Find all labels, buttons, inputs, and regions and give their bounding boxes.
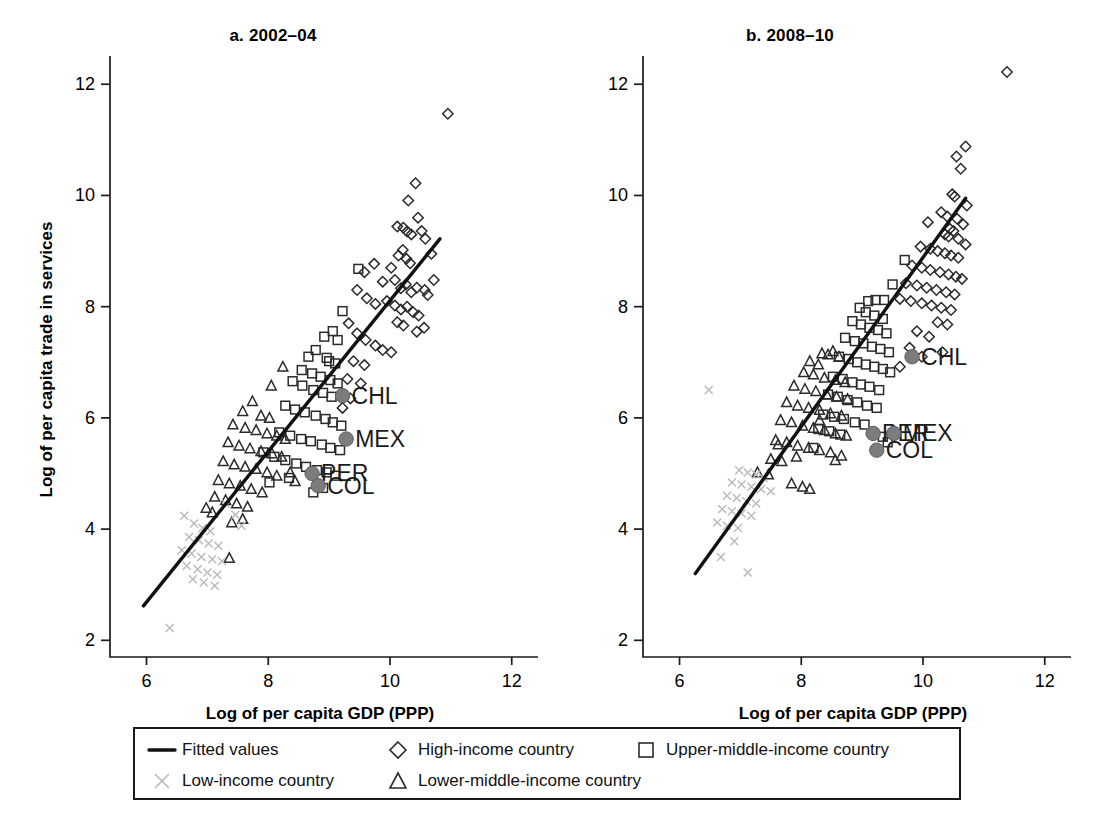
marker-triangle (240, 423, 250, 432)
marker-diamond (348, 356, 358, 366)
marker-square (333, 336, 342, 345)
marker-triangle (290, 476, 300, 485)
marker-square (880, 296, 889, 305)
marker-cross (203, 568, 211, 576)
marker-square (320, 332, 329, 341)
marker-square (336, 446, 345, 455)
figure-root: a. 2002–04 68101224681012Log of per capi… (0, 0, 1093, 829)
marker-diamond (386, 263, 396, 273)
highlight-marker-col (311, 479, 325, 493)
x-tick-label: 6 (142, 671, 152, 691)
marker-cross (747, 512, 755, 520)
marker-cross (767, 487, 775, 495)
y-tick-label: 8 (85, 297, 95, 317)
marker-cross (713, 518, 721, 526)
marker-triangle (800, 384, 810, 393)
marker-square (292, 459, 301, 468)
marker-diamond (1002, 67, 1012, 77)
marker-cross (189, 575, 197, 583)
legend-triangle-icon (383, 770, 413, 792)
marker-square (338, 307, 347, 316)
fitted-values-line (695, 198, 965, 573)
legend-item-low-income-country: Low-income country (147, 764, 334, 797)
marker-square (872, 403, 881, 412)
y-axis-title: Log of per capita trade in services (37, 222, 56, 498)
marker-triangle (257, 487, 267, 496)
marker-diamond (931, 285, 941, 295)
marker-cross (735, 466, 743, 474)
legend-label: Fitted values (182, 740, 278, 760)
marker-triangle (246, 484, 256, 493)
marker-triangle (262, 467, 272, 476)
country-label-col: COL (886, 437, 934, 463)
marker-triangle (811, 386, 821, 395)
legend-row-0: Fitted valuesHigh-income countryUpper-mi… (135, 733, 959, 766)
marker-triangle (782, 397, 792, 406)
marker-diamond (942, 319, 952, 329)
marker-triangle (793, 440, 803, 449)
marker-diamond (926, 300, 936, 310)
marker-diamond (337, 403, 347, 413)
y-tick-label: 10 (608, 185, 628, 205)
marker-cross (213, 571, 221, 579)
marker-square (860, 420, 869, 429)
marker-square (870, 362, 879, 371)
marker-square (888, 280, 897, 289)
marker-cross (166, 624, 174, 632)
marker-diamond (936, 207, 946, 217)
marker-cross (728, 478, 736, 486)
highlight-marker-per (866, 426, 880, 440)
marker-cross (723, 492, 731, 500)
x-tick-label: 12 (1035, 671, 1055, 691)
x-tick-label: 6 (675, 671, 685, 691)
marker-square (297, 435, 306, 444)
country-label-col: COL (327, 473, 375, 499)
marker-cross (738, 481, 746, 489)
marker-triangle (776, 415, 786, 424)
legend-square-icon (631, 739, 661, 761)
legend-item-lower-middle-income-country: Lower-middle-income country (383, 764, 641, 797)
marker-diamond (935, 267, 945, 277)
marker-diamond (369, 259, 379, 269)
marker-triangle (245, 443, 255, 452)
x-tick-label: 10 (380, 671, 400, 691)
y-tick-label: 10 (75, 185, 95, 205)
marker-triangle (210, 492, 220, 501)
panel-a: a. 2002–04 68101224681012Log of per capi… (0, 0, 546, 700)
marker-square (297, 366, 306, 375)
marker-square (328, 327, 337, 336)
panel-a-plot: 68101224681012Log of per capita GDP (PPP… (0, 0, 546, 700)
axis-lines (643, 56, 1071, 657)
marker-triangle (826, 447, 836, 456)
marker-cross (197, 553, 205, 561)
y-tick-label: 8 (618, 297, 628, 317)
marker-diamond (936, 303, 946, 313)
marker-triangle (247, 396, 257, 405)
marker-square (865, 382, 874, 391)
marker-triangle (218, 456, 228, 465)
marker-cross (205, 540, 213, 548)
marker-cross (214, 542, 222, 550)
y-tick-label: 6 (85, 408, 95, 428)
marker-diamond (377, 276, 387, 286)
marker-cross (717, 553, 725, 561)
marker-triangle (799, 367, 809, 376)
marker-diamond (941, 287, 951, 297)
marker-triangle (787, 417, 797, 426)
x-tick-label: 8 (796, 671, 806, 691)
highlight-marker-chl (905, 350, 919, 364)
legend-label: High-income country (418, 740, 574, 760)
marker-square (885, 348, 894, 357)
marker-square (317, 440, 326, 449)
marker-triangle (841, 430, 851, 439)
marker-cross (208, 555, 216, 563)
marker-triangle (815, 445, 825, 454)
legend-label: Low-income country (182, 771, 334, 791)
marker-cross (744, 468, 752, 476)
marker-square (298, 381, 307, 390)
marker-cross (728, 507, 736, 515)
marker-square (325, 357, 334, 366)
marker-square (354, 264, 363, 273)
marker-square (876, 345, 885, 354)
country-label-chl: CHL (352, 383, 398, 409)
